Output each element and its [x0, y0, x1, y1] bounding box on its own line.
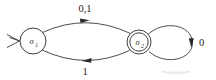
state-diagram: σ 1 σ 2 0,1 1 0 — [0, 0, 216, 80]
state-label-s1-subscript: 1 — [35, 42, 38, 48]
transition-label-bottom: 1 — [82, 66, 87, 77]
transition-s1-to-s2[interactable] — [43, 19, 131, 34]
transition-s2-self-loop[interactable] — [148, 26, 194, 60]
transition-s2-to-s1[interactable] — [42, 50, 130, 63]
state-label-s2-subscript: 2 — [141, 43, 144, 49]
start-arrowhead — [7, 35, 20, 48]
transition-label-self-loop: 0 — [199, 37, 204, 48]
arrowhead-down-icon — [189, 38, 194, 48]
state-node-s1[interactable]: σ 1 — [20, 28, 46, 54]
transition-label-top: 0,1 — [78, 3, 91, 14]
state-node-s2[interactable]: σ 2 — [127, 30, 151, 54]
state-diagram-canvas: σ 1 σ 2 0,1 1 0 — [0, 0, 216, 80]
scan-shadow-smudge — [162, 72, 190, 74]
